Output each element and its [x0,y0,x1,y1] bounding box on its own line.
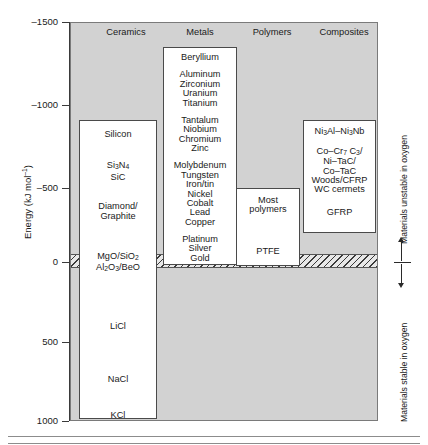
material-entry: Si3N4 [80,161,156,171]
material-entry: Titanium [164,99,236,108]
material-entry: Silicon [80,130,156,139]
y-tick-label: 500 [18,336,58,347]
y-axis-line [69,22,70,421]
y-tick-label: 1000 [18,415,58,426]
arrow-up-head [398,237,404,242]
y-tick-mark [62,188,69,189]
oxygen-stability-annotation: Materials unstable in oxygen Materials s… [388,22,418,421]
label-materials-stable-in-oxygen: Materials stable in oxygen [399,323,409,422]
stability-arrows [401,237,403,289]
y-tick-mark [62,105,69,106]
material-entry: MgO/SiO2 [80,252,156,262]
material-entry: WC cermets [304,185,375,194]
arrow-down-shaft [401,264,402,284]
y-tick-mark [62,262,69,263]
figure-root: –1500 –1000 –500 0 500 1000 Energy (kJ m… [0,0,428,445]
material-entry: polymers [237,205,299,214]
y-tick-label: –1000 [18,99,58,110]
y-axis-title-tail: ) [22,165,33,168]
y-tick-mark [62,342,69,343]
y-tick-mark [62,421,69,422]
label-materials-unstable-in-oxygen: Materials unstable in oxygen [399,135,409,244]
material-entry: Diamond/ [80,202,156,211]
material-entry: NaCl [80,375,156,384]
material-entry: KCl [80,411,156,419]
material-entry: Copper [164,218,236,227]
column-header-metals: Metals [160,27,240,37]
material-entry: Zinc [164,144,236,153]
column-header-ceramics: Ceramics [86,27,166,37]
class-box-composites: Ni3Al–Ni3Nb Co–Cr7 C3/ Ni–TaC/ Co–TaC Wo… [303,120,376,233]
arrow-up-shaft [401,241,402,261]
material-entry: Al2O3/BeO [80,263,156,273]
bottom-rule-primary [8,436,420,437]
bottom-rule-secondary [8,443,420,444]
material-entry: Beryllium [164,53,236,62]
arrow-down-head [398,283,404,288]
material-entry: SiC [80,173,156,182]
y-tick-label: –1500 [18,16,58,27]
y-axis-title: Energy (kJ mol–1) [21,142,33,262]
material-entry: GFRP [304,208,375,217]
material-entry: PTFE [237,247,299,256]
material-entry: Graphite [80,212,156,221]
y-axis-title-exponent: –1 [21,168,28,175]
stability-divider [394,262,411,263]
class-box-metals: Beryllium Aluminum Zirconium Uranium Tit… [163,47,237,265]
y-tick-mark [62,22,69,23]
material-entry: LiCl [80,322,156,331]
column-header-composites: Composites [300,27,388,37]
material-entry: Ni3Al–Ni3Nb [304,127,375,137]
class-box-polymers: Most polymers PTFE [236,188,300,266]
material-entry: Gold [164,254,236,263]
class-box-ceramics: Silicon Si3N4 SiC Diamond/ Graphite MgO/… [79,120,157,419]
y-axis-title-text: Energy (kJ mol [22,176,33,239]
